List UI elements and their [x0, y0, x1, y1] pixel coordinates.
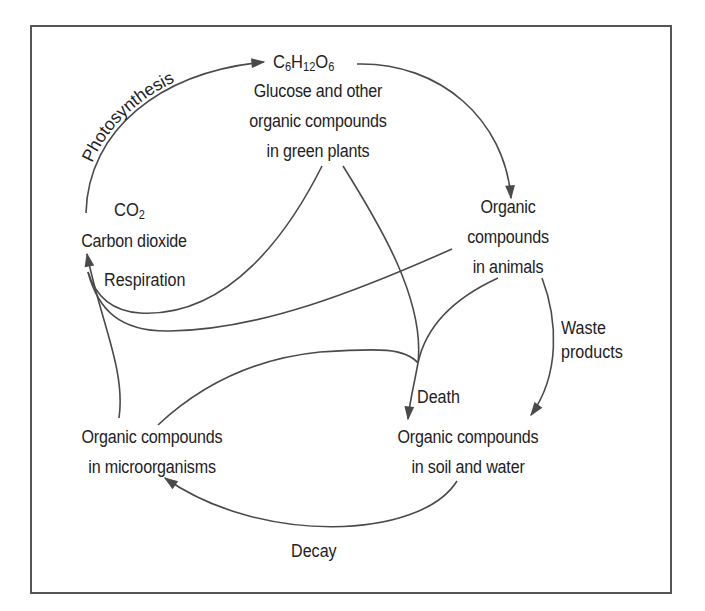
decay-label: Decay — [291, 541, 337, 562]
respiration-label: Respiration — [104, 270, 185, 291]
death-label: Death — [417, 387, 460, 408]
co2-formula: CO2 — [114, 200, 145, 222]
animals-line-2: compounds — [455, 222, 562, 252]
co2-node: Carbon dioxide — [64, 226, 204, 256]
co2-line-1: Carbon dioxide — [64, 226, 204, 256]
animals-line-1: Organic — [455, 192, 562, 222]
plants-death-line — [343, 166, 419, 363]
microorganisms-line-1: Organic compounds — [60, 422, 244, 452]
glucose-node: Glucose and other organic compounds in g… — [228, 76, 408, 166]
glucose-line-2: organic compounds — [228, 106, 408, 136]
soil-water-line-1: Organic compounds — [378, 422, 558, 452]
microorganisms-node: Organic compounds in microorganisms — [60, 422, 244, 482]
soil-respiration-line — [158, 350, 418, 425]
microorganisms-line-2: in microorganisms — [60, 452, 244, 482]
decay-arrow — [165, 478, 457, 527]
animals-line-3: in animals — [455, 252, 562, 282]
soil-water-node: Organic compounds in soil and water — [378, 422, 558, 482]
animals-death-line — [418, 278, 498, 363]
soil-water-line-2: in soil and water — [378, 452, 558, 482]
glucose-formula: C6H12O6 — [273, 52, 334, 74]
glucose-line-1: Glucose and other — [228, 76, 408, 106]
waste-arrow — [531, 278, 554, 415]
animals-node: Organic compounds in animals — [455, 192, 562, 282]
glucose-line-3: in green plants — [228, 136, 408, 166]
photosynthesis-label: Photosynthesis — [77, 67, 177, 164]
waste-products-label: Waste products — [561, 316, 623, 364]
